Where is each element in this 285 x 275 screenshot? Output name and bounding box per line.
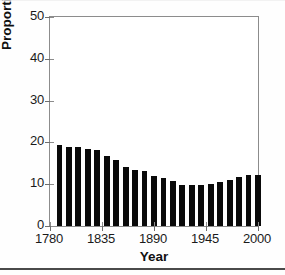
bar [85, 149, 91, 226]
y-tick-label: 20 [4, 133, 44, 148]
bar [75, 147, 81, 226]
bar [208, 184, 214, 226]
bar [57, 145, 63, 226]
bar [123, 167, 129, 226]
x-tick-mark-inner [206, 222, 207, 226]
y-tick-label: 30 [4, 92, 44, 107]
y-tick-label: 10 [4, 175, 44, 190]
x-tick-mark-inner [50, 222, 51, 226]
x-axis-title: Year [49, 249, 259, 264]
bar-series [50, 17, 258, 226]
bar [132, 170, 138, 226]
bar [170, 181, 176, 226]
x-tick-mark-inner [154, 222, 155, 226]
bar [179, 185, 185, 226]
y-tick-mark-inner [50, 17, 54, 18]
y-tick-label: 40 [4, 50, 44, 65]
y-tick-mark-inner [50, 142, 54, 143]
x-tick-mark-inner [258, 222, 259, 226]
bar [227, 180, 233, 226]
x-tick-label: 1835 [71, 231, 131, 246]
x-tick-mark-inner [102, 222, 103, 226]
y-tick-mark-inner [50, 101, 54, 102]
figure-top-edge [0, 0, 285, 1]
x-tick-label: 1945 [175, 231, 235, 246]
bar [113, 160, 119, 226]
bar [189, 185, 195, 226]
bar [151, 176, 157, 226]
bar [217, 182, 223, 226]
bar [161, 178, 167, 226]
x-tick-label: 1890 [123, 231, 183, 246]
bar [66, 147, 72, 226]
x-tick-label: 1780 [19, 231, 79, 246]
figure-bottom-divider [0, 268, 285, 270]
bar [142, 171, 148, 226]
bar [236, 177, 242, 226]
y-tick-mark-inner [50, 184, 54, 185]
bar [94, 150, 100, 226]
y-tick-label: 50 [4, 8, 44, 23]
figure-canvas: Proportion Black 01020304050 17801835189… [0, 0, 285, 275]
x-tick-label: 2000 [227, 231, 285, 246]
plot-area [49, 16, 259, 227]
y-tick-label: 0 [4, 217, 44, 232]
bar [246, 175, 252, 226]
bar [104, 156, 110, 226]
bar [198, 185, 204, 226]
bar [255, 175, 261, 226]
y-tick-mark-inner [50, 59, 54, 60]
